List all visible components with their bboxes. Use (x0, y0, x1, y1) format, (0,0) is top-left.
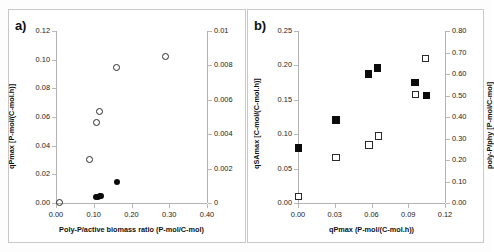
panel-a-right-axis-line (207, 31, 208, 203)
panel-b-left-ticklabel: 0.10 (256, 129, 292, 138)
panel-b-bottom-tick (372, 204, 373, 208)
panel-b-bottom-ticklabel: 0.12 (425, 210, 465, 219)
panel-a-datapoint-qPmax (56, 199, 63, 206)
panel-a-left-tick (52, 146, 56, 147)
panel-b-bottom-tick (335, 204, 336, 208)
panel-b-left-ticklabel: 0.20 (256, 60, 292, 69)
panel-b-left-tick (294, 134, 298, 135)
panel-b-y2-axis-title: poly-P/phy [P-mol/C-mol] (485, 82, 494, 169)
panel-a-datapoint-qPmax (93, 119, 100, 126)
panel-b-left-ticklabel: 0.15 (256, 95, 292, 104)
panel-b-datapoint-qSAmax (332, 116, 340, 124)
panel-a-datapoint-qPmax (113, 64, 120, 71)
panel-a-datapoint-qPmax (162, 53, 169, 60)
panel-a-right-tick (208, 134, 212, 135)
panel-a-bottom-tick (132, 204, 133, 208)
panel-a-bottom-ticklabel: 0.30 (149, 210, 189, 219)
panel-a-plot-area: 0.000.020.040.060.080.100.1200.0020.0040… (56, 31, 207, 203)
panel-a-datapoint-mATP (114, 179, 120, 185)
panel-b-bottom-ticklabel: 0.00 (278, 210, 318, 219)
panel-a-datapoint-qPmax (96, 108, 103, 115)
panel-a-y-axis-title: qPmax [P-mol/(C-mol.h)] (7, 84, 16, 169)
panel-a-bottom-tick (207, 204, 208, 208)
panel-a-right-tick (208, 65, 212, 66)
panel-b-left-ticklabel: 0.25 (256, 26, 292, 35)
panel-b: b) 0.000.050.100.150.200.250.000.100.200… (247, 9, 484, 243)
panel-b-x-axis-title: qPmax (P-mol/(C-mol.h)) (298, 225, 445, 234)
panel-b-y-axis-title: qSAmax [C-mol/(C-mol.h)] (252, 78, 261, 169)
panel-a-left-ticklabel: 0.10 (14, 55, 50, 64)
panel-a-right-tick (208, 169, 212, 170)
panel-b-right-tick (446, 117, 450, 118)
panel-a-bottom-ticklabel: 0.40 (187, 210, 227, 219)
panel-b-bottom-tick (445, 204, 446, 208)
panel-b-right-ticklabel: 0.10 (452, 177, 492, 186)
panel-a-bottom-ticklabel: 0.10 (74, 210, 114, 219)
panel-b-bottom-ticklabel: 0.03 (315, 210, 355, 219)
panel-a-right-tick (208, 31, 212, 32)
panel-a-left-ticklabel: 0.00 (14, 198, 50, 207)
panel-a-left-ticklabel: 0.06 (14, 112, 50, 121)
panel-b-right-ticklabel: 0.70 (452, 48, 492, 57)
panel-b-datapoint-polyPphy (295, 193, 303, 201)
panel-b-plot-area: 0.000.050.100.150.200.250.000.100.200.30… (298, 31, 445, 203)
panel-b-right-tick (446, 182, 450, 183)
panel-b-datapoint-qSAmax (411, 79, 419, 87)
panel-b-right-tick (446, 139, 450, 140)
panel-b-datapoint-polyPphy (412, 91, 420, 99)
panel-a-right-tick (208, 203, 212, 204)
panel-a-datapoint-mATP (98, 193, 104, 199)
panel-b-datapoint-qSAmax (365, 70, 373, 78)
panel-a-bottom-tick (94, 204, 95, 208)
panel-a-left-tick (52, 60, 56, 61)
panel-a-bottom-ticklabel: 0.20 (112, 210, 152, 219)
panel-a-left-tick (52, 117, 56, 118)
panel-a-left-ticklabel: 0.08 (14, 83, 50, 92)
panel-a-left-tick (52, 31, 56, 32)
panel-b-right-tick (446, 96, 450, 97)
panel-b-right-tick (446, 160, 450, 161)
panel-b-left-ticklabel: 0.05 (256, 164, 292, 173)
panel-a-left-ticklabel: 0.02 (14, 169, 50, 178)
panel-a-bottom-tick (169, 204, 170, 208)
panel-b-left-tick (294, 100, 298, 101)
panel-b-datapoint-qSAmax (295, 144, 303, 152)
panel-b-right-tick (446, 53, 450, 54)
panel-a: a) 0.000.020.040.060.080.100.1200.0020.0… (8, 9, 246, 243)
panel-b-left-axis-line (298, 31, 299, 203)
panel-b-datapoint-qSAmax (423, 92, 431, 100)
panel-a-bottom-ticklabel: 0.00 (36, 210, 76, 219)
panel-a-right-tick (208, 100, 212, 101)
panel-b-left-tick (294, 169, 298, 170)
panel-a-left-ticklabel: 0.04 (14, 141, 50, 150)
panel-a-left-axis-line (56, 31, 57, 203)
panel-b-datapoint-qSAmax (374, 64, 382, 72)
panel-b-left-ticklabel: 0.00 (256, 198, 292, 207)
panel-b-bottom-tick (298, 204, 299, 208)
panel-a-x-axis-title: Poly-P/active biomass ratio (P-mol/C-mol… (56, 225, 207, 234)
panel-a-left-ticklabel: 0.12 (14, 26, 50, 35)
panel-b-datapoint-polyPphy (365, 141, 373, 149)
panel-b-bottom-tick (408, 204, 409, 208)
panel-b-datapoint-polyPphy (332, 154, 340, 162)
panel-b-right-tick (446, 31, 450, 32)
panel-b-bottom-ticklabel: 0.06 (352, 210, 392, 219)
panel-b-right-tick (446, 74, 450, 75)
panel-b-right-ticklabel: 0.00 (452, 198, 492, 207)
panel-b-datapoint-polyPphy (375, 132, 383, 140)
panel-a-left-tick (52, 174, 56, 175)
panel-b-bottom-ticklabel: 0.09 (388, 210, 428, 219)
panel-b-left-tick (294, 65, 298, 66)
panel-b-left-tick (294, 31, 298, 32)
panel-b-right-ticklabel: 0.60 (452, 69, 492, 78)
panel-a-datapoint-qPmax (86, 156, 93, 163)
panel-b-datapoint-polyPphy (422, 55, 430, 63)
panel-b-right-ticklabel: 0.80 (452, 26, 492, 35)
panel-b-right-tick (446, 203, 450, 204)
panel-a-left-tick (52, 88, 56, 89)
